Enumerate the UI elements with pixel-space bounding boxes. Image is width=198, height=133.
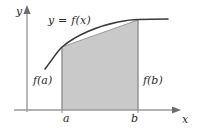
x-axis-arrowhead-icon [172, 106, 181, 113]
y-axis-arrowhead-icon [23, 5, 30, 14]
right-ordinate-label: f(b) [143, 75, 163, 86]
figure-container: y x y = f(x) f(a) f(b) a b [0, 0, 198, 133]
figure-canvas [0, 0, 198, 133]
curve-equation-label: y = f(x) [48, 15, 91, 26]
left-ordinate-label: f(a) [33, 75, 52, 86]
y-axis-label: y [16, 6, 22, 17]
x-axis-label: x [182, 114, 188, 125]
x-tick-label-b: b [131, 113, 138, 124]
x-tick-label-a: a [63, 113, 70, 124]
